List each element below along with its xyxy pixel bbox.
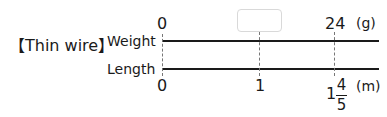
end-dashed-guide	[334, 32, 335, 76]
zero-dashed-guide	[162, 34, 163, 76]
middle-dashed-guide	[259, 32, 260, 76]
weight-line	[162, 40, 379, 42]
weight-tick-end: 24	[325, 14, 345, 33]
length-tick-one: 1	[255, 76, 265, 95]
fraction-denominator: 5	[337, 97, 347, 114]
length-tick-end-fraction: 4 5	[336, 77, 347, 114]
weight-tick-zero: 0	[157, 14, 167, 33]
length-unit: (m)	[356, 78, 381, 94]
answer-box[interactable]	[237, 9, 282, 32]
thin-wire-title: 【Thin wire】	[9, 32, 114, 56]
weight-label: Weight	[107, 33, 156, 49]
length-tick-zero: 0	[157, 76, 167, 95]
length-tick-end-whole: 1	[326, 84, 336, 103]
length-line	[162, 68, 379, 70]
length-label: Length	[107, 61, 155, 77]
fraction-numerator: 4	[337, 77, 347, 94]
weight-unit: (g)	[356, 15, 376, 31]
